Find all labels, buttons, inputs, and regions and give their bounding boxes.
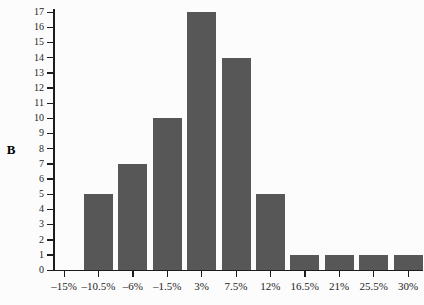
x-tick-mark — [408, 271, 409, 277]
x-tick-mark — [304, 271, 305, 277]
y-tick-label: 7 — [14, 159, 44, 169]
y-tick-label: 12 — [14, 83, 44, 93]
y-tick-mark — [47, 118, 53, 119]
bar — [325, 255, 354, 270]
bar — [84, 194, 113, 270]
y-tick-label: 6 — [14, 174, 44, 184]
y-tick-label: 3 — [14, 219, 44, 229]
y-tick-mark — [47, 133, 53, 134]
bar — [359, 255, 388, 270]
histogram-figure: B 01234567891011121314151617 –15%–10.5%–… — [0, 0, 424, 305]
x-tick-mark — [64, 271, 65, 277]
y-tick-mark — [47, 209, 53, 210]
y-tick-label: 4 — [14, 204, 44, 214]
y-tick-mark — [47, 27, 53, 28]
y-tick-mark — [47, 178, 53, 179]
y-tick-label: 1 — [14, 250, 44, 260]
y-tick-mark — [47, 42, 53, 43]
y-tick-label: 16 — [14, 22, 44, 32]
y-tick-mark — [47, 148, 53, 149]
y-tick-mark — [47, 254, 53, 255]
x-tick-mark — [270, 271, 271, 277]
x-tick-mark — [339, 271, 340, 277]
y-tick-mark — [47, 103, 53, 104]
y-tick-label: 8 — [14, 144, 44, 154]
y-tick-label: 10 — [14, 113, 44, 123]
y-tick-label: 9 — [14, 128, 44, 138]
y-tick-label: 5 — [14, 189, 44, 199]
y-tick-mark — [47, 12, 53, 13]
y-tick-label: 17 — [14, 7, 44, 17]
x-tick-mark — [373, 271, 374, 277]
bar — [118, 164, 147, 270]
x-tick-label: 30% — [383, 281, 424, 292]
y-tick-label: 13 — [14, 68, 44, 78]
y-tick-label: 11 — [14, 98, 44, 108]
y-axis-line — [53, 9, 55, 271]
x-tick-mark — [236, 271, 237, 277]
x-tick-mark — [167, 271, 168, 277]
y-tick-label: 0 — [14, 265, 44, 275]
y-tick-label: 2 — [14, 235, 44, 245]
bar — [222, 58, 251, 270]
x-tick-mark — [132, 271, 133, 277]
x-tick-mark — [201, 271, 202, 277]
y-tick-mark — [47, 270, 53, 271]
bar — [187, 12, 216, 270]
y-tick-label: 15 — [14, 37, 44, 47]
y-tick-mark — [47, 163, 53, 164]
y-tick-mark — [47, 224, 53, 225]
bar — [394, 255, 423, 270]
y-tick-mark — [47, 194, 53, 195]
y-tick-mark — [47, 239, 53, 240]
bar — [153, 118, 182, 270]
y-tick-mark — [47, 57, 53, 58]
bar — [256, 194, 285, 270]
y-tick-label: 14 — [14, 53, 44, 63]
y-tick-mark — [47, 87, 53, 88]
y-tick-mark — [47, 72, 53, 73]
bar — [290, 255, 319, 270]
x-tick-mark — [98, 271, 99, 277]
